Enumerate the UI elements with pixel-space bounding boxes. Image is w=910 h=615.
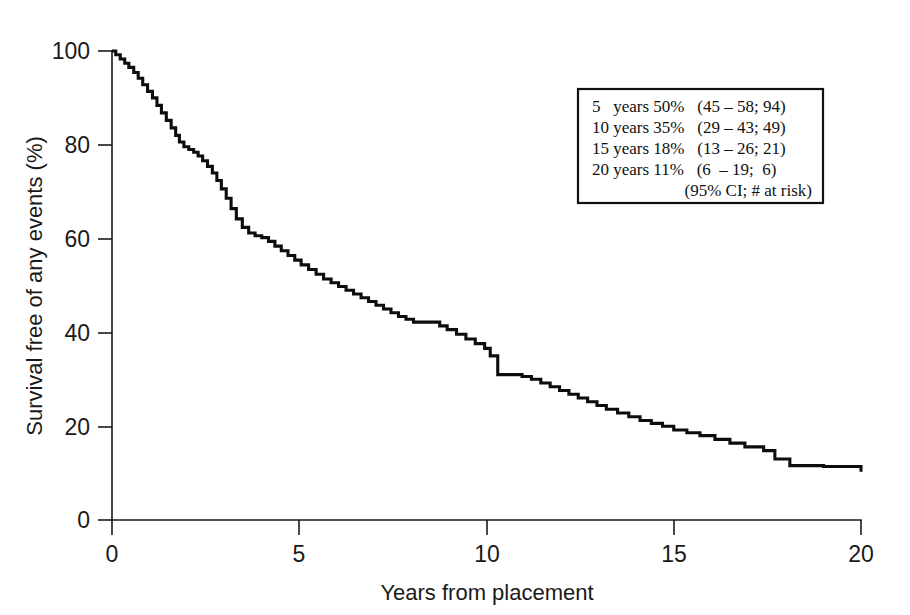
y-axis-ticks — [98, 51, 112, 520]
x-axis-title: Years from placement — [380, 580, 593, 605]
y-tick-label-40: 40 — [64, 320, 90, 346]
y-tick-label-60: 60 — [64, 226, 90, 252]
y-tick-label-20: 20 — [64, 414, 90, 440]
x-tick-label-20: 20 — [848, 541, 874, 567]
y-axis-title: Survival free of any events (%) — [22, 136, 47, 436]
x-tick-label-0: 0 — [106, 541, 119, 567]
legend-row-5-years: 5 years 50% (45 – 58; 94) — [592, 97, 786, 116]
legend-row-15-years: 15 years 18% (13 – 26; 21) — [592, 139, 786, 158]
chart-page: 100 80 60 40 20 0 0 5 10 15 20 Years fro… — [0, 0, 910, 615]
y-tick-label-80: 80 — [64, 132, 90, 158]
legend-row-10-years: 10 years 35% (29 – 43; 49) — [592, 118, 786, 137]
legend-box: 5 years 50% (45 – 58; 94) 10 years 35% (… — [578, 89, 823, 203]
x-axis-ticks — [112, 520, 861, 535]
legend-footnote: (95% CI; # at risk) — [685, 181, 812, 200]
kaplan-meier-chart: 100 80 60 40 20 0 0 5 10 15 20 Years fro… — [0, 0, 910, 615]
y-tick-label-0: 0 — [77, 507, 90, 533]
y-tick-label-100: 100 — [52, 38, 90, 64]
x-tick-label-10: 10 — [474, 541, 500, 567]
x-tick-label-5: 5 — [293, 541, 306, 567]
x-tick-label-15: 15 — [661, 541, 687, 567]
legend-row-20-years: 20 years 11% (6 – 19; 6) — [592, 160, 776, 179]
